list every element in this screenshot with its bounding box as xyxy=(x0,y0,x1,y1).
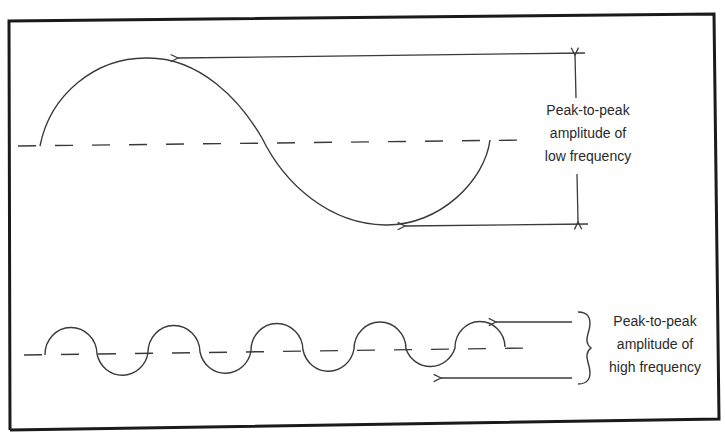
high-label-line-1: Peak-to-peak xyxy=(598,310,712,333)
low-frequency-label: Peak-to-peak amplitude of low frequency xyxy=(533,99,643,168)
low-frequency-wave xyxy=(40,58,490,225)
high-frequency-group xyxy=(24,312,591,384)
high-frequency-wave xyxy=(45,322,505,376)
high-frequency-label: Peak-to-peak amplitude of high frequency xyxy=(598,310,712,379)
low-dimension-arrow-down xyxy=(577,174,578,222)
high-dimension-brace xyxy=(578,312,591,384)
low-label-line-3: low frequency xyxy=(533,145,643,168)
high-label-line-3: high frequency xyxy=(598,356,712,379)
low-dimension-arrow-up xyxy=(575,55,576,98)
amplitude-comparison-figure: Peak-to-peak amplitude of low frequency … xyxy=(0,0,725,434)
low-frequency-group xyxy=(18,53,588,226)
high-label-line-2: amplitude of xyxy=(598,333,712,356)
low-peak-pointer-arrow xyxy=(178,53,585,58)
low-trough-pointer-arrow xyxy=(405,224,588,226)
low-frequency-axis-dashed xyxy=(18,140,528,146)
low-label-line-2: amplitude of xyxy=(533,122,643,145)
low-label-line-1: Peak-to-peak xyxy=(533,99,643,122)
